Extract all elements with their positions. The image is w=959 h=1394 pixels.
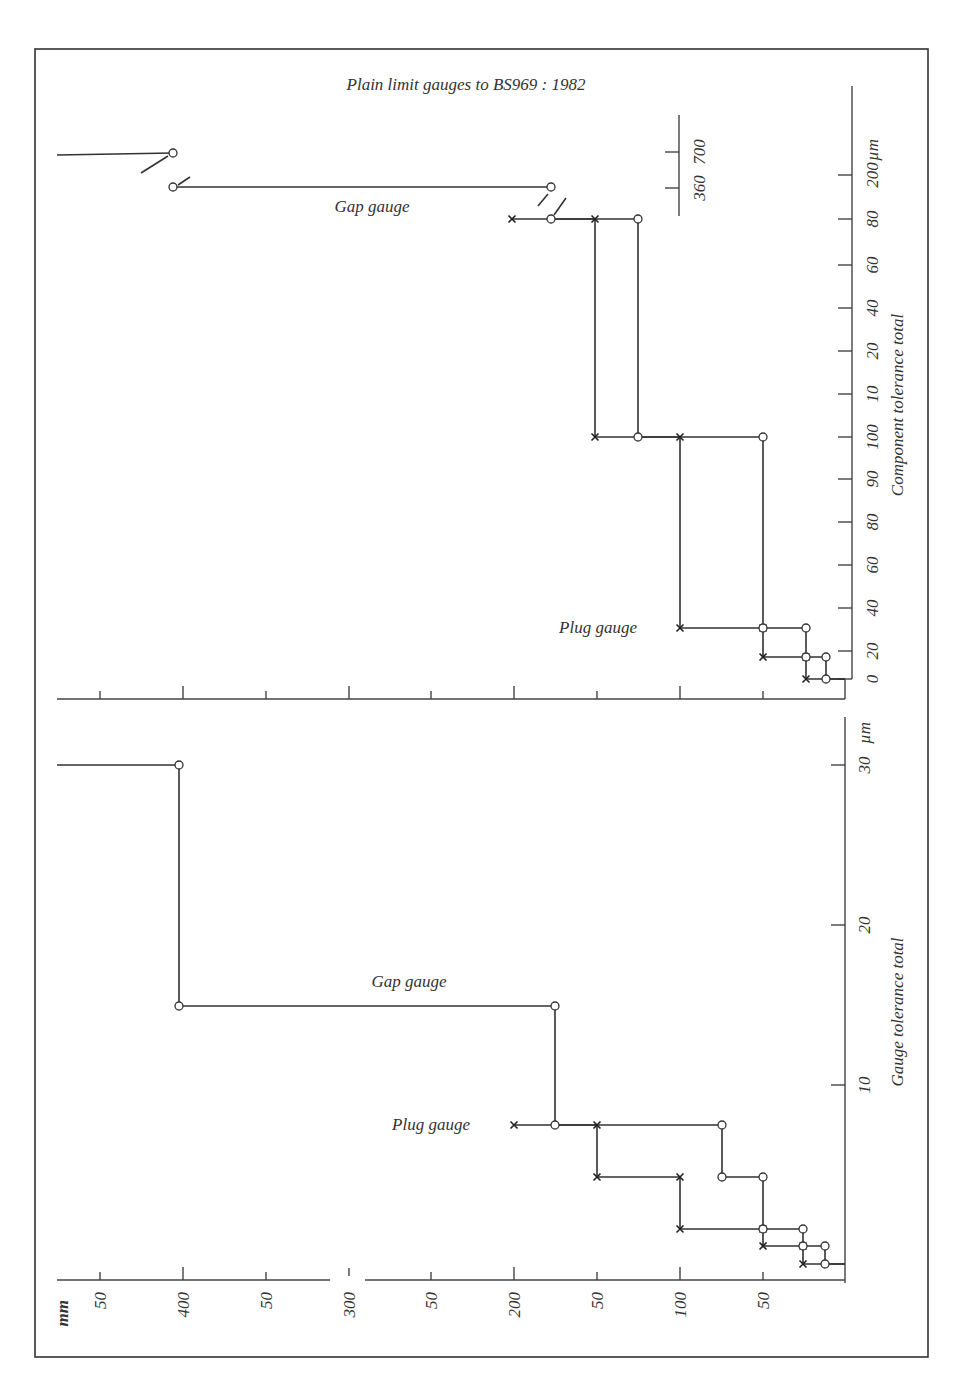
bottom-series bbox=[57, 761, 845, 1268]
top-gap-gauge-label: Gap gauge bbox=[334, 197, 410, 216]
x-ticks: 5040050300502005010050 bbox=[91, 1267, 773, 1319]
top-y-tick-label: 80 bbox=[863, 210, 882, 228]
figure-frame bbox=[35, 49, 928, 1357]
circle-marker-icon bbox=[175, 761, 183, 769]
chart-title: Plain limit gauges to BS969 : 1982 bbox=[346, 75, 586, 94]
break-mark bbox=[538, 194, 548, 206]
circle-marker-icon bbox=[718, 1121, 726, 1129]
top-y-tick-label: 200 bbox=[863, 162, 882, 188]
x-tick-label: 50 bbox=[754, 1292, 773, 1310]
circle-marker-icon bbox=[821, 1242, 829, 1250]
circle-marker-icon bbox=[759, 1225, 767, 1233]
top-series bbox=[57, 149, 845, 683]
top-panel: 020406080901001020406080200 µm Component… bbox=[57, 86, 907, 699]
top-plug-gauge-label: Plug gauge bbox=[558, 618, 637, 637]
circle-marker-icon bbox=[634, 433, 642, 441]
circle-marker-icon bbox=[759, 624, 767, 632]
gap-gauge-line bbox=[57, 765, 845, 1264]
bottom-um-label: µm bbox=[855, 722, 874, 744]
circle-marker-icon bbox=[799, 1242, 807, 1250]
x-tick-label: 400 bbox=[174, 1292, 193, 1318]
circle-marker-icon bbox=[547, 183, 555, 191]
top-um-label: µm bbox=[863, 139, 882, 161]
bottom-y-tick-label: 10 bbox=[855, 1076, 874, 1094]
circle-marker-icon bbox=[169, 149, 177, 157]
top-secondary-tick-label: 700 bbox=[690, 139, 709, 165]
circle-marker-icon bbox=[759, 1173, 767, 1181]
break-mark bbox=[141, 156, 168, 173]
x-tick-label: 50 bbox=[257, 1292, 276, 1310]
top-y-tick-label: 80 bbox=[863, 513, 882, 531]
circle-marker-icon bbox=[799, 1225, 807, 1233]
bottom-y-tick-label: 30 bbox=[855, 756, 874, 775]
bottom-y-tick-label: 20 bbox=[855, 916, 874, 934]
circle-marker-icon bbox=[175, 1002, 183, 1010]
top-y-tick-label: 100 bbox=[863, 424, 882, 450]
x-tick-label: 300 bbox=[340, 1292, 359, 1319]
x-tick-label: 50 bbox=[91, 1292, 110, 1310]
circle-marker-icon bbox=[822, 675, 830, 683]
top-y-axis-label: Component tolerance total bbox=[888, 314, 907, 497]
bottom-plug-gauge-label: Plug gauge bbox=[391, 1115, 470, 1134]
bottom-y-ticks: 302010 bbox=[831, 756, 874, 1094]
gap-gauge-line bbox=[57, 153, 845, 679]
top-x-ticks bbox=[100, 686, 763, 699]
top-y-ticks: 020406080901001020406080200 bbox=[838, 162, 882, 684]
top-y-tick-label: 60 bbox=[863, 256, 882, 274]
circle-marker-icon bbox=[551, 1002, 559, 1010]
bottom-y-axis-label: Gauge tolerance total bbox=[888, 937, 907, 1086]
top-y-tick-label: 10 bbox=[863, 385, 882, 403]
circle-marker-icon bbox=[551, 1121, 559, 1129]
top-y-tick-label: 60 bbox=[863, 556, 882, 574]
circle-marker-icon bbox=[718, 1173, 726, 1181]
top-y-tick-label: 40 bbox=[863, 599, 882, 617]
circle-marker-icon bbox=[802, 624, 810, 632]
break-mark bbox=[554, 198, 566, 215]
circle-marker-icon bbox=[822, 653, 830, 661]
top-y-tick-label: 90 bbox=[863, 470, 882, 488]
top-y-tick-label: 20 bbox=[863, 342, 882, 360]
x-tick-label: 100 bbox=[671, 1292, 690, 1318]
mm-label: mm bbox=[53, 1300, 72, 1326]
bottom-panel: 302010 µm Gauge tolerance total 50400503… bbox=[53, 717, 907, 1326]
plug-gauge-line bbox=[514, 1125, 845, 1264]
x-tick-label: 200 bbox=[505, 1292, 524, 1318]
circle-marker-icon bbox=[547, 215, 555, 223]
bottom-gap-gauge-label: Gap gauge bbox=[371, 972, 447, 991]
gauge-tolerance-chart: Plain limit gauges to BS969 : 1982 02040… bbox=[0, 0, 959, 1394]
plug-gauge-line bbox=[512, 219, 845, 679]
break-mark bbox=[178, 177, 190, 185]
top-secondary-tick-label: 360 bbox=[690, 175, 709, 202]
x-tick-label: 50 bbox=[588, 1292, 607, 1310]
circle-marker-icon bbox=[802, 653, 810, 661]
circle-marker-icon bbox=[169, 183, 177, 191]
top-y-tick-label: 40 bbox=[863, 299, 882, 317]
circle-marker-icon bbox=[759, 433, 767, 441]
top-secondary-ticks: 700360 bbox=[665, 139, 709, 202]
circle-marker-icon bbox=[634, 215, 642, 223]
top-y-tick-label: 0 bbox=[863, 674, 882, 683]
circle-marker-icon bbox=[821, 1260, 829, 1268]
x-tick-label: 50 bbox=[422, 1292, 441, 1310]
top-y-tick-label: 20 bbox=[863, 642, 882, 660]
